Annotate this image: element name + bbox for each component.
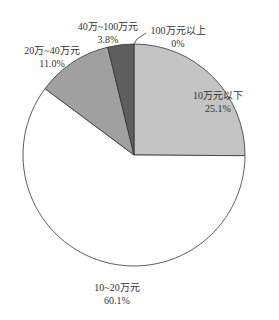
label-name: 10~20万元	[94, 281, 139, 294]
label-name: 10万元以下	[193, 89, 243, 102]
label-pct: 3.8%	[78, 33, 138, 46]
label-10-20w: 10~20万元 60.1%	[94, 281, 139, 307]
label-pct: 60.1%	[94, 294, 139, 307]
label-pct: 0%	[151, 37, 206, 50]
label-20-40w: 20万~40万元 11.0%	[24, 44, 79, 70]
label-name: 40万~100万元	[78, 20, 138, 33]
label-40-100w: 40万~100万元 3.8%	[78, 20, 138, 46]
label-pct: 25.1%	[193, 102, 243, 115]
label-name: 20万~40万元	[24, 44, 79, 57]
label-name: 100万元以上	[151, 24, 206, 37]
label-under-10w: 10万元以下 25.1%	[193, 89, 243, 115]
label-over-100w: 100万元以上 0%	[151, 24, 206, 50]
label-pct: 11.0%	[24, 57, 79, 70]
